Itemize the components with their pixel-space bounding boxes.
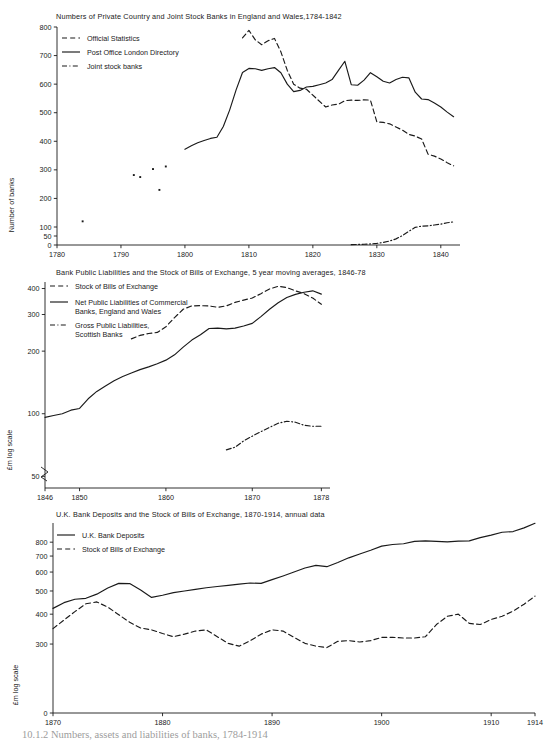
legend-label: Joint stock banks [87, 62, 143, 71]
data-point [165, 166, 167, 168]
x-tick-label: 1780 [49, 250, 65, 259]
series-line [226, 421, 321, 450]
chart-panel-2: Bank Public Liabilities and the Stock of… [0, 262, 553, 505]
legend-label: U.K. Bank Deposits [82, 531, 145, 540]
y-tick-label: 300 [28, 310, 40, 319]
y-tick-label: 400 [36, 610, 48, 619]
y-tick-label: 300 [36, 640, 48, 649]
x-tick-label: 1914 [527, 718, 543, 727]
x-tick-label: 1890 [264, 718, 280, 727]
x-tick-label: 1870 [45, 718, 61, 727]
y-tick-label: 400 [40, 137, 52, 146]
chart1-plot: 0501002003004005006007008001780179018001… [0, 0, 553, 262]
x-tick-label: 1840 [433, 250, 449, 259]
x-tick-label: 1830 [369, 250, 385, 259]
y-tick-label: 800 [40, 23, 52, 32]
data-point [152, 168, 154, 170]
y-axis-title: Number of banks [7, 177, 16, 232]
y-tick-label: 100 [40, 223, 52, 232]
y-tick-label: 500 [36, 587, 48, 596]
legend-label: Net Public Liabilities of Commercial [75, 298, 188, 307]
y-tick-label: 100 [28, 409, 40, 418]
x-tick-label: 1810 [241, 250, 257, 259]
y-tick-label: 400 [28, 284, 40, 293]
y-tick-label: 0 [48, 241, 52, 250]
x-tick-label: 1900 [374, 718, 390, 727]
chart-panel-3: U.K. Bank Deposits and the Stock of Bill… [0, 505, 553, 741]
legend-label: Gross Public Liabilities, [75, 321, 149, 330]
legend-label: Banks, England and Wales [75, 307, 161, 316]
y-tick-label: 200 [28, 347, 40, 356]
data-point [158, 189, 160, 191]
chart2-plot: 5010020030040018461850186018701878£m log… [0, 262, 553, 505]
x-tick-label: 1850 [72, 493, 88, 502]
x-tick-label: 1790 [113, 250, 129, 259]
y-axis-title: £m log scale [5, 430, 14, 470]
chart3-plot: 0300400500600700800187018801890190019101… [0, 505, 553, 741]
y-tick-label: 200 [40, 194, 52, 203]
y-tick-label: 500 [40, 108, 52, 117]
y-tick-label: 0 [44, 709, 48, 718]
legend-label: Stock of Bills of Exchange [82, 545, 165, 554]
y-tick-label: 300 [40, 165, 52, 174]
y-tick-label: 600 [36, 568, 48, 577]
data-point [133, 174, 135, 176]
y-tick-label: 700 [40, 51, 52, 60]
y-tick-label: 600 [40, 80, 52, 89]
x-tick-label: 1820 [305, 250, 321, 259]
figure-caption: 10.1.2 Numbers, assets and liabilities o… [22, 729, 268, 740]
y-tick-label: 50 [32, 472, 40, 481]
x-tick-label: 1880 [155, 718, 171, 727]
y-tick-label: 50 [44, 232, 52, 241]
legend-label: Post Office London Directory [87, 48, 179, 57]
legend-label: Scottish Banks [75, 330, 123, 339]
x-tick-label: 1878 [313, 493, 329, 502]
legend-label: Official Statistics [87, 34, 140, 43]
x-tick-label: 1800 [177, 250, 193, 259]
chart-panel-1: Numbers of Private Country and Joint Sto… [0, 0, 553, 262]
series-line [351, 222, 453, 245]
x-tick-label: 1860 [158, 493, 174, 502]
y-tick-label: 800 [36, 538, 48, 547]
x-tick-label: 1870 [244, 493, 260, 502]
data-point [139, 176, 141, 178]
series-line [53, 596, 535, 647]
y-axis-title: £m log scale [11, 665, 20, 705]
series-line [243, 30, 454, 165]
x-tick-label: 1846 [37, 493, 53, 502]
x-tick-label: 1910 [483, 718, 499, 727]
y-tick-label: 700 [36, 552, 48, 561]
data-point [82, 220, 84, 222]
figure-container: Numbers of Private Country and Joint Sto… [0, 0, 553, 741]
legend-label: Stock of Bills of Exchange [75, 282, 158, 291]
